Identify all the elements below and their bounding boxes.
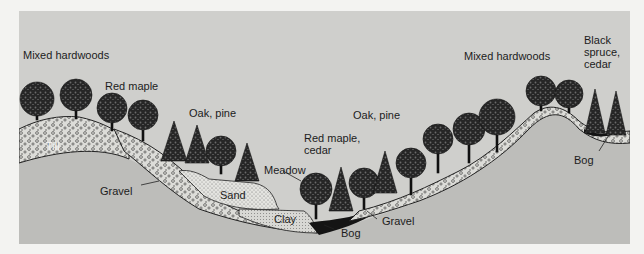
label-till: Till xyxy=(46,140,60,152)
label-gravel-right: Gravel xyxy=(382,215,414,227)
tree-deciduous xyxy=(206,136,236,174)
label-meadow: Meadow xyxy=(264,164,306,176)
tree-conifer xyxy=(606,91,626,135)
label-sand: Sand xyxy=(220,189,246,201)
label-black-spruce-cedar: Black spruce, cedar xyxy=(584,34,620,70)
tree-conifer xyxy=(161,121,187,161)
label-clay: Clay xyxy=(274,213,296,225)
label-bog-right: Bog xyxy=(574,154,594,166)
tree-deciduous xyxy=(396,148,426,195)
tree-conifer xyxy=(373,151,397,193)
tree-deciduous xyxy=(128,100,158,141)
tree-deciduous xyxy=(526,76,556,111)
label-red-maple-left: Red maple xyxy=(105,80,158,92)
landscape-cross-section xyxy=(19,11,630,244)
tree-deciduous xyxy=(20,82,54,120)
tree-deciduous xyxy=(423,124,453,173)
label-oak-pine-left: Oak, pine xyxy=(189,107,236,119)
label-bog-center: Bog xyxy=(341,227,361,239)
label-mixed-hardwoods-left: Mixed hardwoods xyxy=(23,49,109,61)
tree-conifer xyxy=(329,167,353,211)
label-gravel-left: Gravel xyxy=(100,185,132,197)
label-red-maple-cedar: Red maple, cedar xyxy=(304,132,360,156)
tree-conifer xyxy=(185,125,209,163)
tree-deciduous xyxy=(60,79,92,119)
diagram-panel: Mixed hardwoods Red maple Oak, pine Mead… xyxy=(19,11,630,244)
label-mixed-hardwoods-right: Mixed hardwoods xyxy=(464,50,550,62)
tree-conifer xyxy=(585,89,605,133)
label-oak-pine-right: Oak, pine xyxy=(353,109,400,121)
tree-conifer xyxy=(235,143,259,181)
